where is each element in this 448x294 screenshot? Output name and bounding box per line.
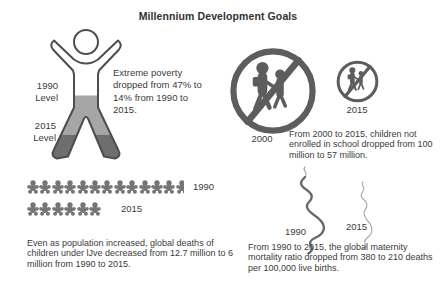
page-title: Millennium Development Goals bbox=[118, 10, 318, 22]
child-icon bbox=[77, 202, 89, 216]
child-icon bbox=[114, 180, 126, 194]
child-row-2015 bbox=[27, 202, 101, 216]
child-icon bbox=[139, 180, 151, 194]
child-icon bbox=[39, 180, 51, 194]
child-deaths-text: Even as population increased, global dea… bbox=[27, 238, 237, 269]
level-2015-label: 2015 Level bbox=[16, 120, 56, 143]
child-row-2015-label: 2015 bbox=[121, 203, 142, 214]
person-head bbox=[74, 30, 98, 54]
child-row-1990-label: 1990 bbox=[193, 181, 214, 192]
child-icon bbox=[27, 180, 39, 194]
no-children-sign-large-icon bbox=[229, 47, 317, 135]
child-icon-partial bbox=[176, 180, 184, 194]
maternal-text: From 1990 to 2015, the global maternity … bbox=[248, 242, 444, 273]
child-icon bbox=[89, 180, 101, 194]
child-icon bbox=[101, 180, 113, 194]
infographic-canvas: Millennium Development Goals 1990 Level … bbox=[0, 0, 448, 294]
child-icon bbox=[77, 180, 89, 194]
school-year-2000-label: 2000 bbox=[239, 133, 285, 144]
child-row-1990 bbox=[27, 180, 184, 194]
child-icon bbox=[64, 180, 76, 194]
child-icon bbox=[64, 202, 76, 216]
school-text: From 2000 to 2015, children not enrolled… bbox=[289, 129, 443, 160]
child-icon bbox=[163, 180, 175, 194]
pregnant-profile-2015-icon bbox=[350, 181, 376, 249]
school-year-2015-label: 2015 bbox=[334, 104, 380, 115]
maternal-1990-label: 1990 bbox=[285, 226, 306, 237]
child-icon bbox=[89, 202, 101, 216]
pregnant-profile-1990-icon bbox=[284, 166, 332, 254]
child-icon bbox=[52, 180, 64, 194]
child-icon bbox=[176, 180, 184, 194]
child-icon bbox=[126, 180, 138, 194]
child-icon bbox=[39, 202, 51, 216]
child-icon bbox=[151, 180, 163, 194]
child-icon bbox=[52, 202, 64, 216]
no-children-sign-small-icon bbox=[336, 60, 379, 103]
child-icon bbox=[27, 202, 39, 216]
maternal-2015-label: 2015 bbox=[346, 221, 367, 232]
poverty-text: Extreme poverty dropped from 47% to 14% … bbox=[113, 67, 207, 117]
level-1990-label: 1990 Level bbox=[20, 80, 58, 103]
